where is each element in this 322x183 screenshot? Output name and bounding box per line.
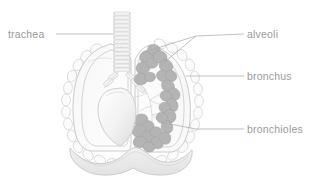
trachea: [114, 12, 130, 72]
label-bronchioles: bronchioles: [247, 123, 303, 135]
label-alveoli: alveoli: [247, 28, 278, 40]
label-bronchus: bronchus: [247, 70, 292, 82]
respiratory-system-diagram: trachea alveoli bronchus bronchioles: [0, 0, 322, 183]
label-trachea: trachea: [8, 28, 44, 40]
